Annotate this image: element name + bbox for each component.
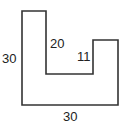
u-shape-outline xyxy=(22,11,118,105)
shape-diagram: 30 20 11 30 xyxy=(0,0,128,124)
bottom-side-label: 30 xyxy=(63,109,77,124)
inner-right-side-label: 11 xyxy=(77,49,91,64)
left-side-label: 30 xyxy=(2,51,16,66)
inner-left-side-label: 20 xyxy=(50,36,64,51)
